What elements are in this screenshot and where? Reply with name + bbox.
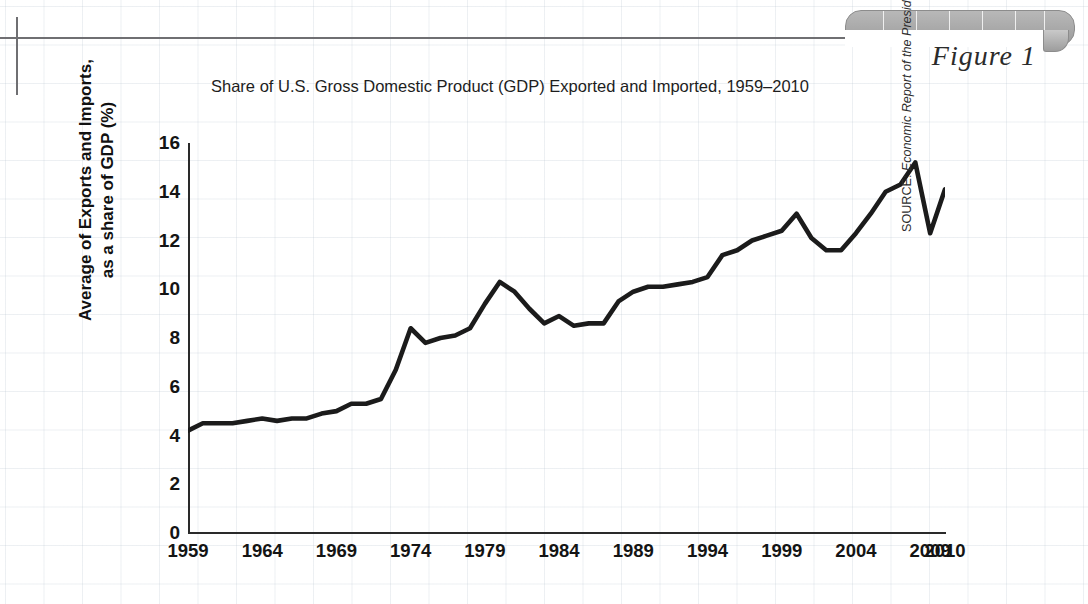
y-tick-8: 8 <box>140 327 180 349</box>
y-axis-title-line2: as a share of GDP (%) <box>98 102 117 278</box>
source-note: SOURCE: Economic Report of the President… <box>898 0 916 232</box>
series-line <box>188 163 945 431</box>
y-axis-title-line1: Average of Exports and Imports, <box>76 59 95 321</box>
y-tick-12: 12 <box>140 230 180 252</box>
source-prefix: SOURCE: <box>900 171 914 232</box>
x-tick-1989: 1989 <box>613 540 654 562</box>
y-axis-tick-labels: 0246810121416 <box>134 143 180 533</box>
chart-title: Share of U.S. Gross Domestic Product (GD… <box>0 77 1020 96</box>
figure-tab-tail <box>1043 30 1069 52</box>
x-tick-1964: 1964 <box>242 540 283 562</box>
x-tick-1974: 1974 <box>390 540 431 562</box>
x-tick-2004: 2004 <box>835 540 876 562</box>
x-tick-1979: 1979 <box>464 540 505 562</box>
chart-plot <box>188 143 945 533</box>
x-tick-1984: 1984 <box>539 540 580 562</box>
y-tick-16: 16 <box>140 132 180 154</box>
x-tick-1959: 1959 <box>167 540 208 562</box>
y-tick-2: 2 <box>140 473 180 495</box>
x-tick-1994: 1994 <box>687 540 728 562</box>
figure-label: Figure 1 <box>932 40 1036 72</box>
x-tick-1969: 1969 <box>316 540 357 562</box>
y-tick-6: 6 <box>140 376 180 398</box>
header-horizontal-rule <box>0 37 905 39</box>
source-publication: Economic Report of the President <box>900 0 914 171</box>
y-axis-title: Average of Exports and Imports, as a sha… <box>75 20 119 360</box>
y-tick-14: 14 <box>140 181 180 203</box>
x-axis-tick-labels: 1959196419691974197919841989199419992004… <box>188 540 946 566</box>
x-tick-1999: 1999 <box>761 540 802 562</box>
x-tick-2010: 2010 <box>924 540 965 562</box>
y-tick-10: 10 <box>140 278 180 300</box>
y-tick-4: 4 <box>140 425 180 447</box>
